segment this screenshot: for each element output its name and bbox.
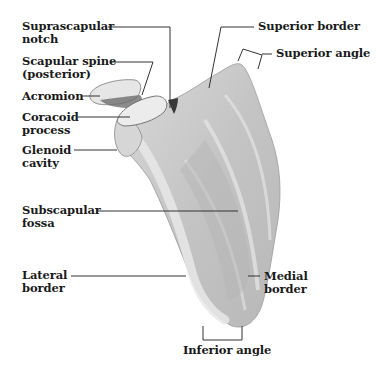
label-acromion: Acromion (22, 90, 83, 103)
leader-inferior-angle (203, 326, 242, 340)
label-text: Superior angle (276, 47, 370, 60)
label-coracoid-process: Coracoid process (22, 111, 79, 137)
label-text: border (22, 282, 67, 295)
label-scapular-spine: Scapular spine (posterior) (22, 55, 116, 81)
scapula-diagram: Suprascapular notch Scapular spine (post… (0, 0, 376, 374)
label-superior-angle: Superior angle (276, 47, 370, 60)
label-medial-border: Medial border (264, 270, 308, 296)
label-text: border (264, 283, 308, 296)
label-text: fossa (22, 217, 101, 230)
label-text: Acromion (22, 90, 83, 103)
label-inferior-angle: Inferior angle (183, 344, 271, 357)
label-text: cavity (22, 157, 71, 170)
label-lateral-border: Lateral border (22, 269, 67, 295)
label-text: Superior border (258, 20, 360, 33)
label-glenoid-cavity: Glenoid cavity (22, 144, 71, 170)
label-subscapular-fossa: Subscapular fossa (22, 204, 101, 230)
label-text: Inferior angle (183, 344, 271, 357)
label-text: (posterior) (22, 68, 116, 81)
label-superior-border: Superior border (258, 20, 360, 33)
label-suprascapular-notch: Suprascapular notch (22, 20, 114, 46)
label-text: notch (22, 33, 114, 46)
label-text: process (22, 124, 79, 137)
